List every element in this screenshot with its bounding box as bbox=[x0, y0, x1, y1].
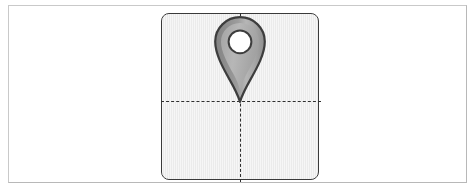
app-root: Map Pin Placement Canvas bbox=[0, 0, 476, 192]
map-pin-hole bbox=[229, 30, 252, 53]
map-pin-icon[interactable] bbox=[214, 16, 266, 103]
outer-frame bbox=[8, 5, 467, 183]
artboard[interactable] bbox=[161, 13, 319, 180]
